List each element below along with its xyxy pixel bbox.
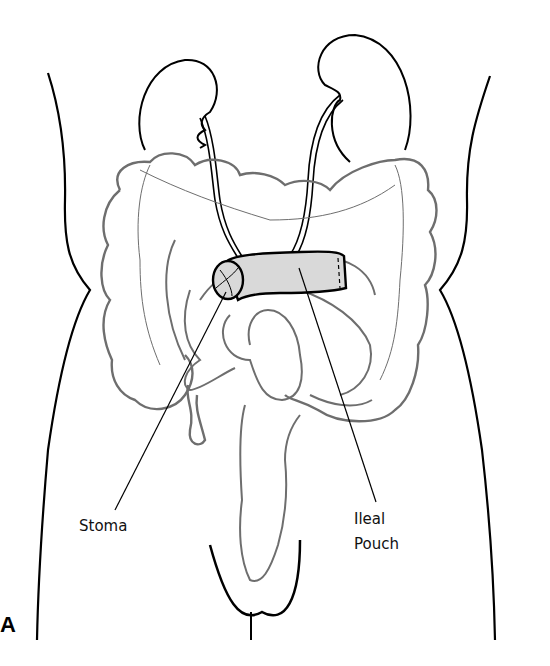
pelvis-outline (210, 540, 300, 615)
urinary-diversion-diagram (0, 0, 550, 666)
torso-outline (37, 73, 495, 640)
colon (101, 153, 436, 444)
right-kidney (318, 35, 410, 162)
stoma-leader-line (115, 292, 226, 510)
stoma[interactable] (213, 261, 243, 299)
ileal-pouch-leader-line (299, 268, 376, 502)
panel-letter: A (0, 612, 16, 638)
stoma-label: Stoma (79, 517, 127, 535)
ileal-pouch-label-line1: Ileal (354, 510, 385, 528)
ileal-pouch-label-line2: Pouch (354, 535, 399, 553)
